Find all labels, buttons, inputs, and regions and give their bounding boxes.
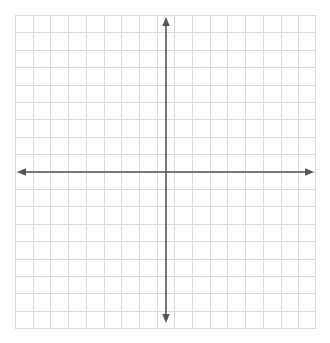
- x-axis-left-arrowhead-icon: [17, 168, 26, 175]
- y-axis-top-arrowhead-icon: [162, 17, 169, 26]
- coordinate-plane-figure: [0, 0, 330, 343]
- x-axis-right-arrowhead-icon: [305, 168, 314, 175]
- axes-layer: [0, 0, 330, 343]
- y-axis: [162, 17, 169, 323]
- y-axis-bottom-arrowhead-icon: [162, 314, 169, 323]
